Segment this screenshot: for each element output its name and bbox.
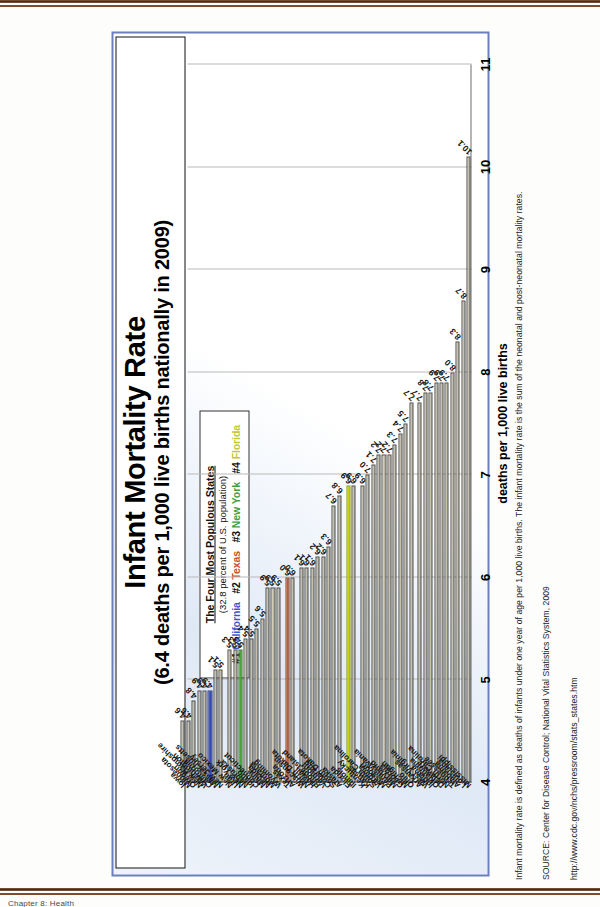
bar-north-carolina (444, 382, 448, 782)
bar-alaska (337, 495, 341, 782)
tick-label: 10 (477, 159, 492, 173)
tick-label: 4 (477, 778, 492, 785)
gridline (187, 268, 471, 269)
bar-nevada (265, 587, 269, 782)
chart-bar-row: 6.1 (310, 567, 314, 782)
bar-florida (346, 485, 350, 782)
bar-rhode-island (315, 556, 319, 782)
bar-vermont (321, 556, 325, 782)
tick-label: 6 (477, 573, 492, 580)
tick-label: 9 (477, 266, 492, 273)
value-axis-title: deaths per 1,000 live births (495, 343, 509, 504)
bar-ohio (409, 403, 413, 783)
chart-bar-row: 6.8 (337, 495, 341, 782)
slide-title-box: Infant Mortality Rate (6.4 deaths per 1,… (115, 36, 185, 868)
chart-bar-row: 8.0 (450, 372, 454, 782)
chart-bar-row: 7.2 (381, 454, 385, 782)
bar-georgia (398, 433, 402, 782)
bar-arkansas (417, 403, 421, 783)
tick-label: 11 (477, 57, 492, 71)
chart-bar-row: 7.9 (434, 382, 438, 782)
bar-south-carolina (371, 464, 375, 782)
bar-kentucky (360, 485, 364, 782)
gridline (187, 63, 471, 64)
chart-bar-row: 8.7 (461, 300, 465, 782)
page-title: Infant Mortality Rate (119, 37, 149, 867)
chart-bar-row: 7.9 (444, 382, 448, 782)
bar-maine (260, 618, 264, 782)
bar-west-virginia (423, 392, 427, 782)
chart-bar-row: 7.8 (423, 392, 427, 782)
chart-bar-row: 7.7 (409, 403, 413, 783)
gridline (187, 166, 471, 167)
chart-bar-row: 7.1 (371, 464, 375, 782)
bar-michigan (403, 423, 407, 782)
bar-tennessee (450, 372, 454, 782)
bar-virginia (376, 454, 380, 782)
bar-kansas (365, 474, 369, 782)
bar-oklahoma (434, 382, 438, 782)
chart-bar-row: 7.5 (403, 423, 407, 782)
chart-bar-row: 7.0 (365, 474, 369, 782)
chart-bar-row: 6.9 (351, 485, 355, 782)
chart-bar-row: 7.9 (439, 382, 443, 782)
chart-bar-row: 6.3 (326, 546, 330, 782)
bar-indiana (428, 392, 432, 782)
slide-container: Infant Mortality Rate (6.4 deaths per 1,… (0, 0, 600, 907)
bar-alabama (455, 341, 459, 782)
chart-bar-row: 5.4 (243, 638, 247, 782)
chart-bar-row: 7.7 (417, 403, 421, 783)
bar-missouri (381, 454, 385, 782)
bar-pennsylvania (387, 454, 391, 782)
bar-maryland (392, 444, 396, 782)
bar-louisiana (461, 300, 465, 782)
chart-bar-row: 7.2 (376, 454, 380, 782)
chart-plot-area: 10.18.78.38.07.97.97.97.87.87.77.77.57.4… (187, 64, 471, 782)
tick-label: 8 (477, 368, 492, 375)
chart-bar-row: 6.7 (331, 505, 335, 782)
bar-colorado (326, 546, 330, 782)
bar-illinois (351, 485, 355, 782)
chart-bar-row: 5.6 (260, 618, 264, 782)
chart-bar-row: 6.2 (321, 556, 325, 782)
chart-bar-row: 7.4 (398, 433, 402, 782)
chart-bar-row: 10.1 (466, 156, 470, 782)
chart-bar-row: 7.2 (387, 454, 391, 782)
chart-bar-row: 7.3 (392, 444, 396, 782)
chart-bar-row: 5.9 (265, 587, 269, 782)
chart-bar-row: 6.2 (315, 556, 319, 782)
bar-nebraska (243, 638, 247, 782)
tick-label: 7 (477, 471, 492, 478)
chart-bar-row: 8.3 (455, 341, 459, 782)
bar-hawaii (310, 567, 314, 782)
bar-mississippi (466, 156, 470, 782)
bar-south-dakota (331, 505, 335, 782)
tick-label: 5 (477, 676, 492, 683)
chart-bar-row: 6.9 (346, 485, 350, 782)
bar-delaware (439, 382, 443, 782)
chart-bar-row: 7.8 (428, 392, 432, 782)
chart-bar-row: 6.9 (360, 485, 364, 782)
presentation-slide: Infant Mortality Rate (6.4 deaths per 1,… (111, 31, 489, 876)
